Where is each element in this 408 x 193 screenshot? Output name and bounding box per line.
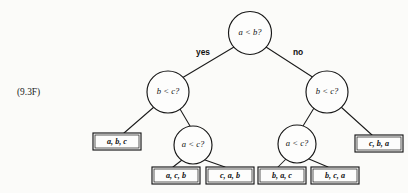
edge-leftac-acb xyxy=(173,160,182,167)
decision-node-right-b-c[interactable]: b < c? xyxy=(306,71,348,113)
node-label-right-a-c: a < c? xyxy=(286,138,309,148)
leaf-label-leaf-bac: b, a, c xyxy=(272,171,292,180)
decision-node-root[interactable]: a < b? xyxy=(229,12,272,55)
edge-leftbc-leftac xyxy=(180,109,190,126)
node-label-left-a-c: a < c? xyxy=(182,139,205,149)
decision-tree-diagram: a < b?b < c?b < c?a < c?a < c? a, b, ca,… xyxy=(0,0,408,193)
edge-rightac-bac xyxy=(278,159,286,167)
decision-node-left-a-c[interactable]: a < c? xyxy=(174,126,212,164)
leaf-node-leaf-abc[interactable]: a, b, c xyxy=(93,133,141,150)
leaf-node-leaf-cba[interactable]: c, b, a xyxy=(355,135,403,152)
leaf-label-leaf-cab: c, a, b xyxy=(220,171,240,180)
leaf-label-leaf-cba: c, b, a xyxy=(369,139,389,148)
no-label: no xyxy=(293,47,303,57)
leaf-node-leaf-acb[interactable]: a, c, b xyxy=(152,167,200,184)
leaf-node-leaf-bca[interactable]: b, c, a xyxy=(311,167,359,184)
yes-label: yes xyxy=(196,47,210,57)
leaf-node-leaf-cab[interactable]: c, a, b xyxy=(206,167,254,184)
edge-leftac-cab xyxy=(205,160,225,167)
leaf-label-leaf-acb: a, c, b xyxy=(166,171,186,180)
edge-root-right xyxy=(266,47,314,78)
edge-rightac-bca xyxy=(309,159,328,167)
edge-rightbc-cba xyxy=(341,107,372,135)
node-label-right-b-c: b < c? xyxy=(316,86,339,96)
node-label-root: a < b? xyxy=(239,27,263,37)
leaf-node-leaf-bac[interactable]: b, a, c xyxy=(258,167,306,184)
leaf-label-leaf-bca: b, c, a xyxy=(325,171,345,180)
tree-decision-nodes: a < b?b < c?b < c?a < c?a < c? xyxy=(147,12,348,165)
edge-leftbc-abc xyxy=(124,107,154,133)
tree-leaf-boxes: a, b, ca, c, bc, a, bb, a, cb, c, ac, b,… xyxy=(93,133,403,184)
edge-rightbc-rightac xyxy=(303,108,314,126)
figure-page: (9.3F) a < b?b < c?b < c?a < c?a < c? a,… xyxy=(0,0,408,193)
leaf-label-leaf-abc: a, b, c xyxy=(107,137,127,146)
node-label-left-b-c: b < c? xyxy=(157,86,180,96)
decision-node-right-a-c[interactable]: a < c? xyxy=(278,125,316,163)
decision-node-left-b-c[interactable]: b < c? xyxy=(147,71,189,113)
